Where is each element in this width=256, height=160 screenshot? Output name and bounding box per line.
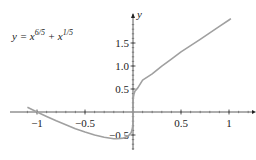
- y-axis-label: y: [136, 8, 142, 20]
- y-tick-label: 0.5: [115, 83, 129, 95]
- x-tick-label: −1: [31, 117, 43, 129]
- y-tick-label: 1.0: [115, 60, 129, 72]
- y-axis-arrow-icon: [131, 13, 135, 18]
- x-tick-label: −0.5: [75, 117, 95, 129]
- x-tick-label: 0.5: [174, 117, 188, 129]
- x-axis-arrow-icon: [252, 110, 256, 114]
- y-tick-label: 1.5: [115, 37, 129, 49]
- function-plot: −1−0.50.51 y −0.50.51.01.5 y = x6/5 + x1…: [0, 0, 256, 160]
- y-axis: y −0.50.51.01.5: [109, 8, 142, 150]
- x-tick-label: 1: [226, 117, 232, 129]
- chart-title: y = x6/5 + x1/5: [11, 28, 73, 42]
